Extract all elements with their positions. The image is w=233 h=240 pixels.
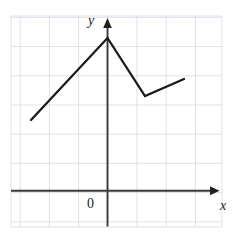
origin-label: 0 bbox=[87, 197, 94, 211]
y-axis-label: y bbox=[88, 14, 94, 28]
y-axis bbox=[103, 18, 112, 227]
x-axis bbox=[11, 186, 220, 195]
plot-canvas bbox=[0, 0, 233, 240]
graph-figure: y x 0 bbox=[0, 0, 233, 240]
x-axis-arrowhead bbox=[210, 186, 220, 195]
x-axis-label: x bbox=[220, 199, 226, 213]
y-axis-arrowhead bbox=[103, 18, 112, 28]
grid-lines bbox=[11, 16, 222, 227]
